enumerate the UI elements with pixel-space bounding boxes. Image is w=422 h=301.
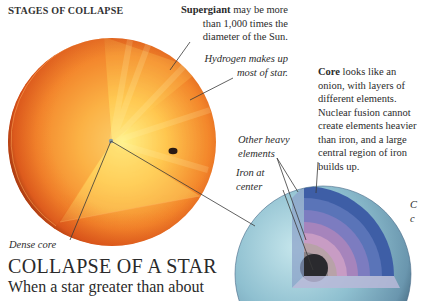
core-term: Core	[318, 66, 340, 77]
section-label-rest: TAGES OF COLLAPSE	[14, 5, 123, 16]
supergiant-line1: may be more	[231, 4, 288, 15]
heading-intro: When a star greater than about	[8, 278, 204, 296]
iron-line1: Iron at	[236, 166, 265, 180]
iron-line2: center	[236, 180, 265, 194]
supergiant-term: Supergiant	[181, 4, 231, 15]
core-line4: Nuclear fusion cannot	[318, 106, 422, 120]
heading-title: COLLAPSE OF A STAR	[8, 255, 217, 277]
core-line6: than iron, and a large	[318, 133, 422, 147]
iron-at-center-label: Iron at center	[236, 166, 265, 193]
cut-off-line2: c	[410, 212, 417, 226]
core-line7: central region of iron	[318, 146, 422, 160]
hydrogen-line1: Hydrogen makes up	[128, 52, 288, 66]
other-heavy-line2: elements	[238, 147, 290, 161]
dense-core-label: Dense core	[9, 238, 56, 252]
section-label: STAGES OF COLLAPSE	[8, 4, 123, 16]
core-line8: builds up.	[318, 160, 422, 174]
core-label: Core looks like an onion, with layers of…	[318, 65, 422, 173]
hydrogen-label: Hydrogen makes up most of star.	[128, 52, 288, 79]
core-sphere	[235, 186, 411, 301]
core-line1: looks like an	[340, 66, 396, 77]
other-heavy-line1: Other heavy	[238, 133, 290, 147]
cut-off-line1: C	[410, 198, 417, 212]
cut-off-label: C c	[410, 198, 417, 225]
core-line2: onion, with layers of	[318, 79, 422, 93]
supergiant-line3: diameter of the Sun.	[108, 30, 288, 44]
core-line5: create elements heavier	[318, 119, 422, 133]
hydrogen-line2: most of star.	[128, 66, 288, 80]
supergiant-line2: than 1,000 times the	[108, 17, 288, 31]
other-heavy-elements-label: Other heavy elements	[238, 133, 290, 160]
supergiant-label: Supergiant may be more than 1,000 times …	[108, 3, 288, 44]
core-line3: different elements.	[318, 92, 422, 106]
